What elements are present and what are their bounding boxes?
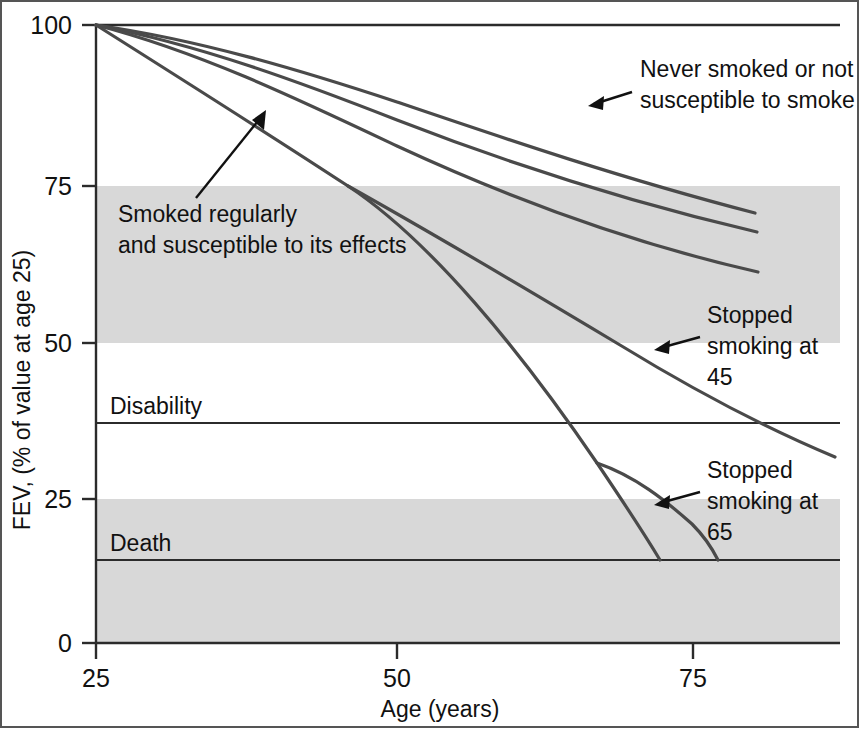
y-ticklabel-25: 25 [44,485,72,513]
figure-container: 100 75 50 25 0 25 50 75 Age (years) FEV,… [0,0,860,729]
annotation-stopped-65-line1: Stopped [707,457,793,483]
x-ticklabel-75: 75 [679,664,707,692]
annotation-never-smoked-line1: Never smoked or not [640,56,854,82]
annotation-smoked-regularly-arrow [196,116,262,198]
y-ticklabel-100: 100 [30,11,72,39]
annotation-stopped-65-line3: 65 [707,519,733,545]
y-ticklabel-0: 0 [58,629,72,657]
x-ticklabel-25: 25 [82,664,110,692]
curve-never-smoked-1 [96,25,755,213]
y-axis-title: FEV, (% of value at age 25) [9,250,35,530]
chart-svg: 100 75 50 25 0 25 50 75 Age (years) FEV,… [0,0,860,729]
death-label: Death [110,530,171,556]
annotation-stopped-45-line3: 45 [707,364,733,390]
annotation-never-smoked-arrowhead [588,96,604,110]
x-ticklabel-50: 50 [383,664,411,692]
disability-label: Disability [110,393,203,419]
annotation-smoked-regularly-line2: and susceptible to its effects [118,232,407,258]
y-ticklabel-50: 50 [44,329,72,357]
annotation-smoked-regularly-line1: Smoked regularly [118,201,297,227]
annotation-stopped-45-line1: Stopped [707,302,793,328]
y-ticklabel-75: 75 [44,172,72,200]
annotation-stopped-45-line2: smoking at [707,333,819,359]
annotation-stopped-65-line2: smoking at [707,488,819,514]
x-axis-title: Age (years) [381,696,500,722]
annotation-never-smoked: Never smoked or not susceptible to smoke [588,56,855,113]
annotation-never-smoked-line2: susceptible to smoke [640,87,855,113]
